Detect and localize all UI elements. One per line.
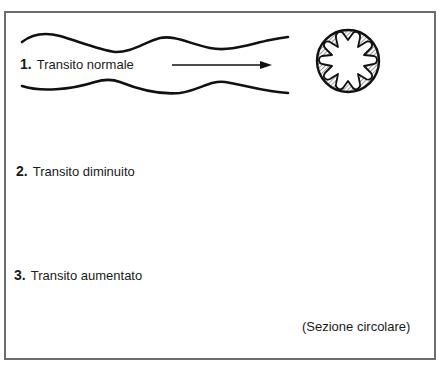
panel-1-text: Transito normale: [37, 57, 134, 72]
panel-3-label: 3.Transito aumentato: [14, 268, 142, 282]
cross-section-caption: (Sezione circolare): [302, 320, 410, 333]
panel-1-number: 1.: [20, 56, 32, 72]
panel-2-label: 2.Transito diminuito: [16, 164, 135, 178]
panel-3-number: 3.: [14, 267, 26, 283]
panel-2-number: 2.: [16, 163, 28, 179]
panel-3-text: Transito aumentato: [31, 268, 143, 283]
panel-1-arrow: [172, 61, 272, 69]
diagram-art: [0, 0, 439, 367]
panel-1-label: 1.Transito normale: [20, 57, 134, 71]
panel-1-cross-section: [317, 30, 379, 92]
panel-2-text: Transito diminuito: [33, 164, 135, 179]
